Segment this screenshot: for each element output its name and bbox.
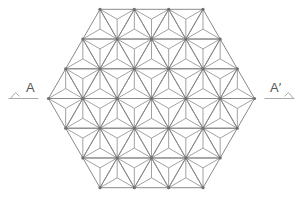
section-label-a: A: [26, 80, 35, 95]
section-label-a-prime: A′: [270, 80, 281, 95]
asanoha-hexagon-diagram: [0, 0, 301, 211]
